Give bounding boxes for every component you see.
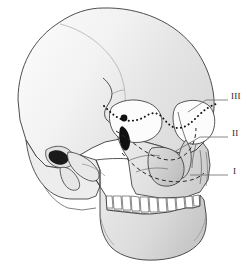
label-le-fort-3: III bbox=[231, 92, 241, 101]
label-le-fort-2: II bbox=[232, 129, 239, 138]
label-le-fort-1: I bbox=[233, 167, 236, 176]
skull-illustration bbox=[0, 0, 250, 269]
skull-le-fort-figure: III II I bbox=[0, 0, 250, 269]
orbit-right bbox=[173, 100, 215, 144]
orbit-left bbox=[109, 100, 162, 143]
